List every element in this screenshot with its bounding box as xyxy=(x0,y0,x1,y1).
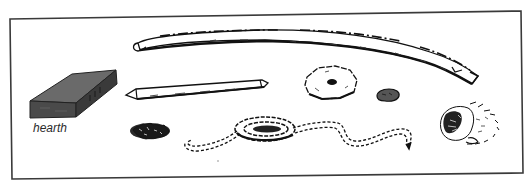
illustration xyxy=(0,0,530,187)
pebble-icon xyxy=(377,89,399,101)
figure-frame: hearth xyxy=(0,0,530,187)
tinder-clump-icon xyxy=(130,123,170,139)
hearth-label: hearth xyxy=(33,122,67,134)
